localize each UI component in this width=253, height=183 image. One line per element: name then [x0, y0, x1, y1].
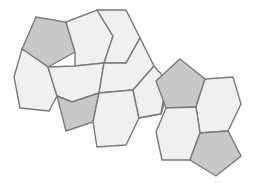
tiling-canvas: [0, 0, 253, 183]
tiling-figure: [0, 0, 253, 183]
